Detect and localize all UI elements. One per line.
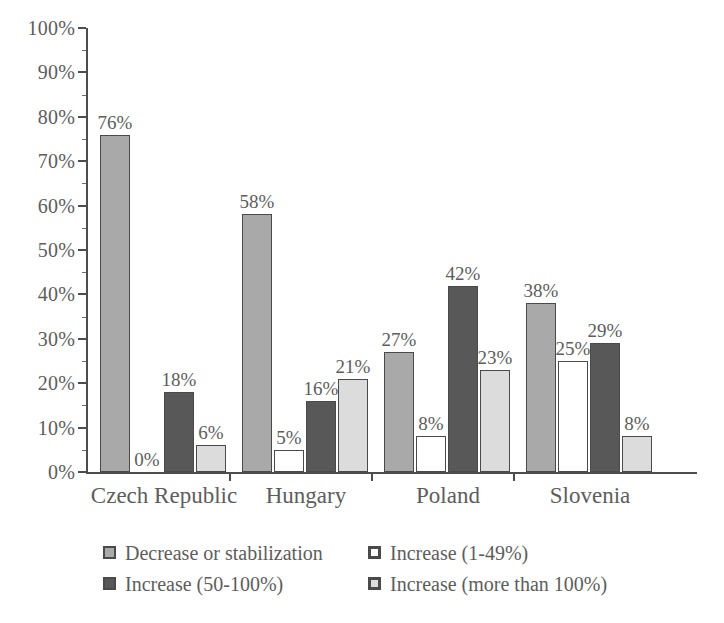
legend-label: Decrease or stabilization (125, 543, 323, 563)
y-axis-tick-label: 80% (38, 106, 75, 126)
legend-label: Increase (more than 100%) (390, 574, 607, 594)
legend-item[interactable]: Increase (50-100%) (103, 574, 368, 594)
bar[interactable] (306, 401, 336, 472)
y-axis-tick-label: 70% (38, 151, 75, 171)
x-axis-tick (513, 472, 515, 481)
legend-swatch-icon (103, 577, 116, 590)
bar-value-label: 23% (478, 348, 513, 367)
chart-legend: Decrease or stabilizationIncrease (1-49%… (103, 537, 643, 599)
y-axis-tick-label: 40% (38, 284, 75, 304)
bar-value-label: 0% (134, 450, 159, 469)
y-axis-minor-tick (82, 405, 86, 406)
legend-label: Increase (1-49%) (390, 543, 528, 563)
y-axis-tick (78, 338, 86, 340)
y-axis-tick (78, 471, 86, 473)
legend-item[interactable]: Decrease or stabilization (103, 543, 368, 563)
y-axis-minor-tick (82, 50, 86, 51)
legend-swatch-icon (368, 546, 381, 559)
bar[interactable] (274, 450, 304, 472)
bar-chart: 0%10%20%30%40%50%60%70%80%90%100%76%0%18… (0, 0, 724, 623)
y-axis-minor-tick (82, 139, 86, 140)
y-axis-tick-label: 60% (38, 195, 75, 215)
y-axis-minor-tick (82, 361, 86, 362)
bar-value-label: 38% (524, 281, 559, 300)
bar-value-label: 29% (588, 321, 623, 340)
bar-value-label: 27% (382, 330, 417, 349)
y-axis-tick-label: 0% (48, 462, 75, 482)
x-axis-line (86, 472, 697, 474)
y-axis-minor-tick (82, 228, 86, 229)
y-axis-tick-label: 30% (38, 328, 75, 348)
y-axis-tick (78, 205, 86, 207)
y-axis-tick-label: 50% (38, 240, 75, 260)
y-axis-minor-tick (82, 317, 86, 318)
bar[interactable] (196, 445, 226, 472)
x-axis-tick (229, 472, 231, 481)
legend-item[interactable]: Increase (more than 100%) (368, 574, 643, 594)
x-axis-tick (371, 472, 373, 481)
y-axis-tick (78, 116, 86, 118)
bar[interactable] (338, 379, 368, 472)
bar[interactable] (558, 361, 588, 472)
bar[interactable] (416, 436, 446, 472)
bar-value-label: 58% (240, 192, 275, 211)
bar[interactable] (242, 214, 272, 472)
y-axis-tick-label: 90% (38, 62, 75, 82)
bar-value-label: 8% (624, 414, 649, 433)
bar-value-label: 18% (162, 370, 197, 389)
bar[interactable] (448, 286, 478, 472)
y-axis-tick (78, 71, 86, 73)
plot-area: 0%10%20%30%40%50%60%70%80%90%100%76%0%18… (86, 28, 696, 472)
y-axis-tick (78, 427, 86, 429)
bar-value-label: 42% (446, 264, 481, 283)
legend-swatch-icon (103, 546, 116, 559)
bar-value-label: 5% (276, 428, 301, 447)
bar[interactable] (164, 392, 194, 472)
bar[interactable] (384, 352, 414, 472)
y-axis-minor-tick (82, 450, 86, 451)
bar[interactable] (100, 135, 130, 472)
bar[interactable] (480, 370, 510, 472)
legend-swatch-icon (368, 577, 381, 590)
y-axis-tick-label: 100% (28, 18, 75, 38)
legend-label: Increase (50-100%) (125, 574, 283, 594)
y-axis-tick-label: 20% (38, 373, 75, 393)
y-axis-tick (78, 382, 86, 384)
y-axis-tick (78, 293, 86, 295)
bar-value-label: 8% (418, 414, 443, 433)
bar-value-label: 25% (556, 339, 591, 358)
bar[interactable] (622, 436, 652, 472)
bar-value-label: 21% (336, 357, 371, 376)
bar[interactable] (526, 303, 556, 472)
y-axis-minor-tick (82, 183, 86, 184)
legend-item[interactable]: Increase (1-49%) (368, 543, 643, 563)
y-axis-tick (78, 160, 86, 162)
bar-value-label: 16% (304, 379, 339, 398)
y-axis-tick-label: 10% (38, 417, 75, 437)
bar-value-label: 6% (198, 423, 223, 442)
y-axis-tick (78, 249, 86, 251)
bar[interactable] (590, 343, 620, 472)
y-axis-tick (78, 27, 86, 29)
y-axis-minor-tick (82, 272, 86, 273)
x-axis-category-label: Slovenia (500, 484, 680, 507)
bar-value-label: 76% (98, 113, 133, 132)
y-axis-minor-tick (82, 95, 86, 96)
